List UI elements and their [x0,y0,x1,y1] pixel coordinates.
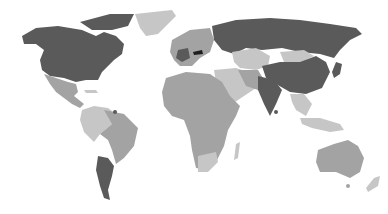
region-caribbean [84,90,98,93]
region-greenland [135,10,176,36]
world-map [0,0,388,214]
region-new-zealand [366,176,380,192]
region-madagascar [234,142,240,160]
region-indonesia [300,118,344,132]
region-southeast-asia [290,94,312,116]
region-suriname [113,110,117,114]
region-europe [170,28,214,66]
region-tasmania [346,184,350,188]
region-arctic-islands [80,14,134,30]
world-map-svg [0,0,388,214]
region-sri-lanka [274,110,278,114]
region-argentina [96,156,114,200]
region-australia [316,140,364,178]
region-north-america [22,26,124,82]
region-japan [332,62,342,78]
